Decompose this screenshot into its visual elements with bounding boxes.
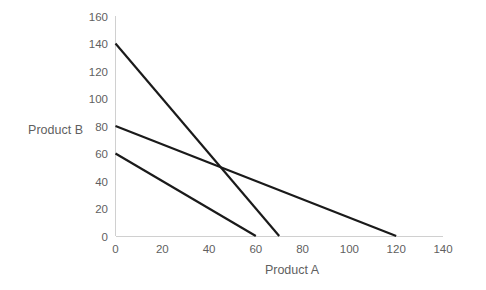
x-tick-label: 120 <box>387 243 406 255</box>
y-tick-label: 120 <box>89 66 108 78</box>
y-tick-label: 0 <box>102 231 108 243</box>
y-tick-label: 20 <box>95 203 108 215</box>
line-chart: 160 140 120 100 80 60 40 20 0 0 20 40 60… <box>0 0 486 290</box>
x-tick-label: 140 <box>433 243 452 255</box>
chart-background <box>0 0 486 290</box>
x-axis-title: Product A <box>265 263 320 277</box>
y-tick-label: 60 <box>95 148 108 160</box>
x-tick-label: 40 <box>203 243 216 255</box>
y-tick-label: 100 <box>89 93 108 105</box>
x-tick-label: 20 <box>156 243 169 255</box>
x-tick-label: 100 <box>340 243 359 255</box>
x-tick-label: 80 <box>296 243 309 255</box>
y-axis-title: Product B <box>28 123 83 137</box>
y-tick-label: 40 <box>95 176 108 188</box>
chart-container: 160 140 120 100 80 60 40 20 0 0 20 40 60… <box>0 0 486 290</box>
y-tick-label: 80 <box>95 121 108 133</box>
x-tick-label: 0 <box>112 243 118 255</box>
x-tick-label: 60 <box>249 243 262 255</box>
y-tick-label: 140 <box>89 38 108 50</box>
y-tick-label: 160 <box>89 11 108 23</box>
